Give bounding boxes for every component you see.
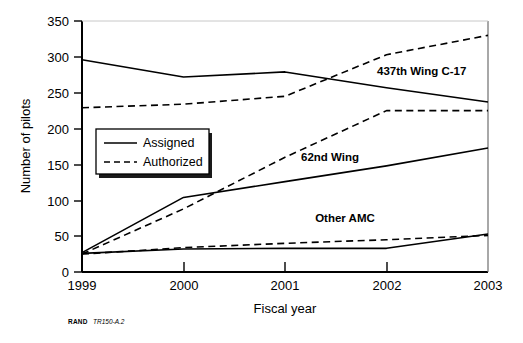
y-tick-label-100: 100 xyxy=(47,194,69,209)
y-tick-label-50: 50 xyxy=(55,229,69,244)
annotation-62nd-wing: 62nd Wing xyxy=(301,151,359,163)
credit-id: TR150-A.2 xyxy=(93,318,125,325)
x-axis-title: Fiscal year xyxy=(254,301,318,316)
chart-legend[interactable]: Assigned Authorized xyxy=(96,129,212,178)
figure-credit: RAND TR150-A.2 xyxy=(68,318,125,325)
x-tick-label-1999: 1999 xyxy=(68,278,97,293)
y-tick-label-300: 300 xyxy=(47,50,69,65)
x-tick-label-2003: 2003 xyxy=(474,278,503,293)
y-tick-label-200: 200 xyxy=(47,122,69,137)
y-tick-label-250: 250 xyxy=(47,86,69,101)
y-axis-title: Number of pilots xyxy=(18,98,33,193)
y-tick-label-150: 150 xyxy=(47,158,69,173)
legend-label-authorized: Authorized xyxy=(143,155,203,169)
annotation-437th-wing-c-17: 437th Wing C-17 xyxy=(377,65,466,77)
x-tick-label-2002: 2002 xyxy=(373,278,402,293)
pilots-line-chart: 0 50 100 150 200 250 300 350 1999 2000 2… xyxy=(0,0,523,343)
x-tick-label-2000: 2000 xyxy=(170,278,199,293)
legend-label-assigned: Assigned xyxy=(143,136,194,150)
figure-container: 0 50 100 150 200 250 300 350 1999 2000 2… xyxy=(0,0,523,343)
x-tick-label-2001: 2001 xyxy=(271,278,300,293)
annotation-other-amc: Other AMC xyxy=(315,212,375,224)
y-tick-label-350: 350 xyxy=(47,14,69,29)
credit-org: RAND xyxy=(68,318,88,325)
